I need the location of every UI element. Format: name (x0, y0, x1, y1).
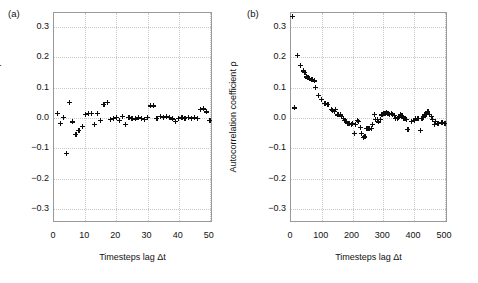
data-point (369, 126, 374, 131)
data-point (344, 119, 349, 124)
data-point (70, 119, 75, 124)
y-axis-tick-label: 0.1 (7, 82, 49, 92)
gridline-horizontal (54, 148, 211, 149)
panel-b: (b) Autocorrelation coefficient ρ Timest… (239, 0, 478, 283)
y-axis-tick-label: −0.1 (244, 142, 286, 152)
data-point (385, 111, 390, 116)
data-point (432, 122, 437, 127)
gridline-vertical (148, 13, 149, 221)
y-axis-tick-label: 0.3 (244, 21, 286, 31)
gridline-horizontal (291, 209, 446, 210)
data-point (316, 93, 321, 98)
data-point (173, 119, 178, 124)
data-point (148, 103, 153, 108)
gridline-vertical (445, 13, 446, 221)
x-axis-tick-label: 300 (375, 230, 390, 240)
data-point (389, 111, 394, 116)
data-point (384, 110, 389, 115)
data-point (436, 121, 441, 126)
data-point (353, 122, 358, 127)
data-point (305, 75, 310, 80)
gridline-horizontal (291, 148, 446, 149)
data-point (336, 112, 341, 117)
y-axis-tick-label: 0.2 (244, 51, 286, 61)
y-axis-tick-label: −0.2 (244, 173, 286, 183)
x-axis-tick-label: 30 (142, 230, 152, 240)
data-point (301, 68, 306, 73)
data-point (332, 109, 337, 114)
data-point (376, 119, 381, 124)
data-point (425, 109, 430, 114)
x-axis-tick-label: 200 (344, 230, 359, 240)
data-point (55, 111, 60, 116)
data-point (333, 107, 338, 112)
data-point (292, 105, 297, 110)
data-point (372, 112, 377, 117)
gridline-vertical (353, 13, 354, 221)
data-point (58, 121, 63, 126)
x-axis-tick-label: 0 (50, 230, 55, 240)
data-point (123, 122, 128, 127)
data-point (364, 126, 369, 131)
panel-a-plot-area (53, 12, 212, 222)
data-point (201, 106, 206, 111)
data-point (67, 100, 72, 105)
panel-b-label: (b) (247, 8, 259, 19)
data-point (367, 126, 372, 131)
panel-b-y-axis-label: Autocorrelation coefficient ρ (228, 12, 238, 222)
gridline-horizontal (54, 118, 211, 119)
data-point (330, 108, 335, 113)
data-point (387, 112, 392, 117)
gridline-horizontal (54, 88, 211, 89)
gridline-vertical (210, 13, 211, 221)
gridline-vertical (116, 13, 117, 221)
gridline-horizontal (291, 179, 446, 180)
data-point (204, 109, 209, 114)
y-axis-tick-label: −0.2 (7, 173, 49, 183)
x-axis-tick-label: 500 (436, 230, 451, 240)
data-point (405, 127, 410, 132)
data-point (359, 131, 364, 136)
gridline-vertical (322, 13, 323, 221)
data-point (101, 102, 106, 107)
panel-a-y-axis-label: Autocorrelation coefficient ρ (0, 12, 1, 222)
y-axis-tick-label: 0.1 (244, 82, 286, 92)
gridline-horizontal (291, 57, 446, 58)
data-point (433, 119, 438, 124)
data-point (95, 111, 100, 116)
data-point (89, 111, 94, 116)
data-point (322, 101, 327, 106)
data-point (151, 103, 156, 108)
data-point (329, 107, 334, 112)
data-point (307, 76, 312, 81)
data-point (390, 112, 395, 117)
x-axis-tick-label: 400 (406, 230, 421, 240)
data-point (73, 132, 78, 137)
data-point (298, 63, 303, 68)
data-point (347, 121, 352, 126)
y-axis-tick-label: 0.0 (7, 112, 49, 122)
data-point (338, 112, 343, 117)
data-point (302, 70, 307, 75)
gridline-horizontal (291, 118, 446, 119)
y-axis-tick-label: 0.2 (7, 51, 49, 61)
data-point (312, 78, 317, 83)
gridline-vertical (179, 13, 180, 221)
x-axis-tick-label: 0 (287, 230, 292, 240)
data-point (435, 121, 440, 126)
data-point (86, 111, 91, 116)
panel-b-x-axis-label: Timesteps lag Δt (290, 252, 447, 262)
x-axis-tick-label: 20 (110, 230, 120, 240)
gridline-horizontal (54, 179, 211, 180)
gridline-horizontal (291, 88, 446, 89)
gridline-vertical (414, 13, 415, 221)
y-axis-tick-label: 0.3 (7, 21, 49, 31)
panel-a: (a) Autocorrelation coefficient ρ Timest… (0, 0, 239, 283)
x-axis-tick-label: 50 (204, 230, 214, 240)
y-axis-tick-label: 0.0 (244, 112, 286, 122)
panel-a-label: (a) (8, 8, 20, 19)
gridline-vertical (383, 13, 384, 221)
gridline-vertical (85, 13, 86, 221)
data-point (365, 126, 370, 131)
x-axis-tick-label: 10 (79, 230, 89, 240)
